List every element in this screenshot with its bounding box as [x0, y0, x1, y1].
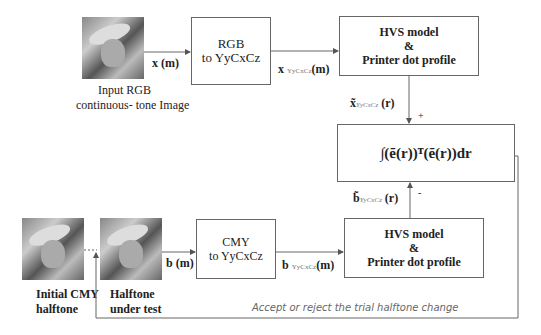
connector-lines	[0, 0, 541, 335]
feedback-label: Accept or reject the trial halftone chan…	[252, 302, 458, 313]
b-m-label: b (m)	[166, 256, 194, 271]
x-ycc-label: x YyCxCz(m)	[278, 62, 330, 77]
b-ycc-label: b YyCxCz(m)	[282, 258, 334, 273]
minus-sign: -	[418, 187, 421, 198]
x-tilde-label: x̃YyCxCz (r)	[350, 96, 395, 111]
b-tilde-label: b̃YyCxCz (r)	[353, 191, 398, 206]
x-m-label: x (m)	[152, 56, 179, 71]
plus-sign: +	[418, 110, 424, 121]
